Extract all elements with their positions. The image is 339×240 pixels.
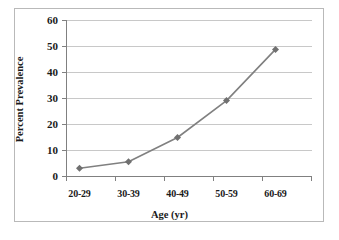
- chart-plot-area: 60 50 40 30 20 10 0 20-29 30-39 40-49 50…: [0, 0, 339, 240]
- ytick-label-60: 60: [28, 15, 58, 26]
- ytick-label-40: 40: [28, 67, 58, 78]
- data-point-marker: [76, 165, 83, 172]
- ytick-label-30: 30: [28, 93, 58, 104]
- ytick-label-10: 10: [28, 145, 58, 156]
- data-point-markers: [76, 46, 279, 172]
- ytick-label-20: 20: [28, 119, 58, 130]
- x-axis-ticks: [67, 177, 312, 182]
- xtick-label-30-39: 30-39: [107, 188, 150, 199]
- y-axis-title: Percent Prevalence: [14, 40, 25, 160]
- chart-figure: 60 50 40 30 20 10 0 20-29 30-39 40-49 50…: [0, 0, 339, 240]
- xtick-label-20-29: 20-29: [58, 188, 101, 199]
- x-axis-title: Age (yr): [0, 209, 339, 220]
- ytick-label-50: 50: [28, 41, 58, 52]
- gridlines: [66, 21, 312, 151]
- xtick-label-50-59: 50-59: [205, 188, 248, 199]
- data-point-marker: [125, 158, 132, 165]
- xtick-label-40-49: 40-49: [156, 188, 199, 199]
- ytick-label-0: 0: [28, 171, 58, 182]
- y-axis-ticks: [62, 21, 66, 177]
- xtick-label-60-69: 60-69: [254, 188, 297, 199]
